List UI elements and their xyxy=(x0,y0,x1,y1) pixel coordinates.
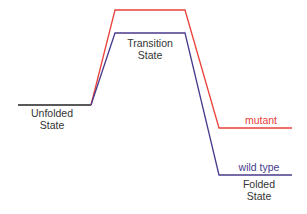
transition-line2: State xyxy=(118,49,182,61)
transition-line1: Transition xyxy=(118,37,182,49)
unfolded-line2: State xyxy=(14,119,90,131)
mutant-label: mutant xyxy=(226,114,296,126)
transition-state-label: Transition State xyxy=(118,37,182,61)
folded-state-label: Folded State xyxy=(224,178,294,202)
unfolded-state-label: Unfolded State xyxy=(14,107,90,131)
unfolded-line1: Unfolded xyxy=(14,107,90,119)
folded-line1: Folded xyxy=(224,178,294,190)
mutant-path xyxy=(91,10,292,128)
folded-line2: State xyxy=(224,190,294,202)
wild-type-label: wild type xyxy=(224,161,294,173)
